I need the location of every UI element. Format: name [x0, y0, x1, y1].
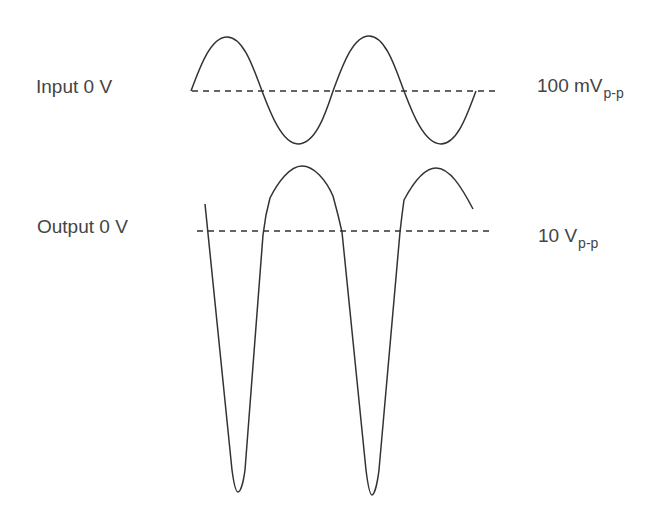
output-distorted-wave	[205, 166, 473, 495]
input-sine-wave	[191, 36, 476, 144]
waveform-canvas	[0, 0, 671, 516]
